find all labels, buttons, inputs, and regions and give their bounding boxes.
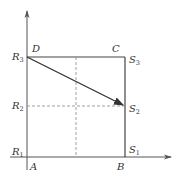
diagonal-arrow xyxy=(27,57,123,105)
label-a: A xyxy=(29,161,37,172)
diagram-canvas: D C A B R3 R2 R1 S3 S2 S1 xyxy=(0,0,184,185)
label-s3: S3 xyxy=(129,54,140,67)
label-s1: S1 xyxy=(129,144,140,157)
label-c: C xyxy=(112,43,120,54)
label-d: D xyxy=(31,43,40,54)
label-r3: R3 xyxy=(11,51,24,64)
label-b: B xyxy=(116,161,124,172)
label-s2: S2 xyxy=(129,103,140,116)
label-r2: R2 xyxy=(11,100,24,113)
